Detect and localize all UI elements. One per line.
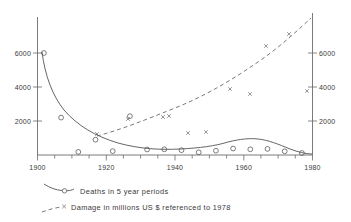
left-axis-tick-label-6000: 6000 [15, 50, 31, 57]
deaths-trend-line [42, 52, 312, 154]
legend-entry-damage: Damage in millions US $ referenced to 19… [42, 203, 231, 213]
damage-marker [248, 92, 252, 96]
legend-line-solid-tail [67, 189, 74, 191]
series-deaths [42, 51, 313, 156]
left-axis: 6000 4000 2000 [15, 17, 42, 155]
chart-svg: 6000 4000 2000 6000 4000 2000 [0, 0, 351, 222]
legend-label-deaths: Deaths in 5 year periods [80, 187, 169, 196]
deaths-marker [127, 114, 132, 119]
legend-label-damage: Damage in millions US $ referenced to 19… [71, 203, 231, 212]
deaths-marker [196, 150, 201, 155]
legend-line-solid [44, 184, 62, 191]
x-axis-tick-label-1940: 1940 [167, 164, 183, 171]
series-damage [95, 18, 311, 136]
damage-marker [167, 114, 171, 118]
deaths-marker [265, 147, 270, 152]
legend-entry-deaths: Deaths in 5 year periods [44, 184, 169, 196]
left-axis-tick-label-4000: 4000 [15, 84, 31, 91]
right-axis-tick-label-4000: 4000 [319, 84, 335, 91]
legend-marker-circle [62, 189, 66, 193]
deaths-marker [59, 115, 64, 120]
deaths-marker [282, 149, 287, 154]
x-axis: 1900 1920 1940 1960 1980 [29, 155, 320, 171]
deaths-marker [93, 137, 98, 142]
x-axis-tick-label-1960: 1960 [236, 164, 252, 171]
x-axis-tick-label-1900: 1900 [29, 164, 45, 171]
deaths-marker [248, 147, 253, 152]
deaths-marker [145, 147, 150, 152]
damage-marker [287, 32, 291, 36]
right-axis-tick-label-6000: 6000 [319, 50, 335, 57]
left-axis-tick-label-2000: 2000 [15, 118, 31, 125]
deaths-marker [214, 148, 219, 153]
right-axis-tick-label-2000: 2000 [319, 118, 335, 125]
x-axis-tick-label-1920: 1920 [98, 164, 114, 171]
chart-legend: Deaths in 5 year periods Damage in milli… [42, 184, 231, 212]
legend-line-dashed [42, 207, 61, 212]
damage-marker [204, 130, 208, 134]
legend-marker-x [62, 205, 66, 209]
chart-figure: 6000 4000 2000 6000 4000 2000 [0, 0, 351, 222]
damage-marker [228, 87, 232, 91]
damage-marker [305, 89, 309, 93]
deaths-marker [76, 150, 81, 155]
deaths-marker [110, 149, 115, 154]
damage-marker [264, 44, 268, 48]
damage-marker [161, 115, 165, 119]
right-axis: 6000 4000 2000 [308, 13, 335, 155]
x-axis-tick-label-1980: 1980 [304, 164, 320, 171]
damage-marker [186, 131, 190, 135]
deaths-marker [231, 146, 236, 151]
